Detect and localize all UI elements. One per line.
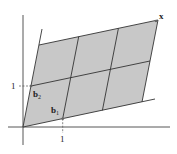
x-point <box>155 20 158 23</box>
x-point-label: x <box>159 11 164 21</box>
b2-point <box>30 85 33 88</box>
lattice-diagram: 1 1 b1 b2 x <box>0 0 177 154</box>
x-tick-label: 1 <box>60 134 65 144</box>
y-tick-label: 1 <box>11 81 16 91</box>
b1-point <box>61 117 64 120</box>
